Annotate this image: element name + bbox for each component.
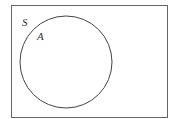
set-a-label: A bbox=[36, 30, 44, 42]
venn-diagram: S A bbox=[0, 0, 177, 119]
universal-set-label: S bbox=[22, 16, 28, 28]
